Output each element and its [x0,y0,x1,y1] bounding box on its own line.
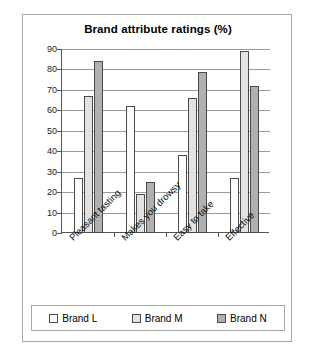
legend-label: Brand N [230,313,267,324]
y-axis-tick-label: 80 [29,65,57,74]
bar[interactable] [240,51,249,233]
legend-swatch-icon [217,314,226,323]
y-axis-tick-label: 50 [29,127,57,136]
y-axis-tick-label: 0 [29,229,57,238]
y-axis-tick-label: 40 [29,147,57,156]
y-axis-tick [57,233,62,234]
legend-item[interactable]: Brand M [132,313,183,324]
y-axis-tick-label: 70 [29,86,57,95]
y-axis-tick-label: 20 [29,188,57,197]
chart-frame: Brand attribute ratings (%) 010203040506… [22,14,292,342]
bar[interactable] [126,106,135,233]
plot-area: 0102030405060708090 [61,49,269,233]
chart-legend: Brand LBrand MBrand N [31,305,285,331]
legend-swatch-icon [49,314,58,323]
x-axis-tick [114,232,115,237]
bar-groups [62,49,270,233]
x-axis-tick [218,232,219,237]
x-axis-tick [166,232,167,237]
legend-label: Brand L [62,313,97,324]
legend-item[interactable]: Brand L [49,313,97,324]
y-axis-tick-label: 60 [29,106,57,115]
y-axis-tick-label: 10 [29,209,57,218]
legend-swatch-icon [132,314,141,323]
bar-group [218,49,270,233]
chart-title: Brand attribute ratings (%) [23,23,293,35]
y-axis-tick-label: 30 [29,168,57,177]
y-axis-tick-label: 90 [29,45,57,54]
legend-item[interactable]: Brand N [217,313,267,324]
legend-label: Brand M [145,313,183,324]
